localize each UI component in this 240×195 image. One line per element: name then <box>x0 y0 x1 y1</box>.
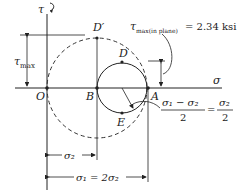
formula-num: σ₁ − σ₂ <box>162 97 198 108</box>
formula-den: 2 <box>180 112 186 123</box>
label-d: D <box>118 47 128 60</box>
formula-rhs-den: 2 <box>222 112 228 123</box>
tau-inplane-label: τmax(in plane) <box>130 20 178 35</box>
point-b <box>95 86 99 90</box>
label-e: E <box>116 116 125 129</box>
sigma2-label: σ₂ <box>64 150 75 161</box>
mohr-circle-diagram: τ σ τmax D′ τmax(in plane) = 2.34 ksi O … <box>0 0 240 195</box>
leader-line <box>162 34 172 74</box>
label-o: O <box>36 90 45 103</box>
tau-axis-label: τ <box>38 3 45 16</box>
label-dprime: D′ <box>92 21 105 34</box>
point-dprime <box>95 36 98 39</box>
label-b: B <box>85 90 94 103</box>
label-a: A <box>150 90 159 103</box>
radius-line <box>122 88 133 108</box>
formula-eq: = <box>207 104 215 115</box>
point-e <box>120 111 123 114</box>
tau-max-label: τmax <box>14 55 35 70</box>
tau-inplane-value: = 2.34 ksi <box>185 21 236 32</box>
point-a <box>146 86 150 90</box>
point-o <box>45 86 49 90</box>
sigma1-label: σ₁ = 2σ₂ <box>76 172 119 183</box>
formula-rhs-num: σ₂ <box>219 97 230 108</box>
point-d <box>120 60 123 63</box>
sigma-axis-label: σ <box>213 74 221 87</box>
